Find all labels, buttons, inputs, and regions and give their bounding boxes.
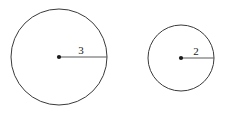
geometry-figure: 3 2: [0, 0, 226, 115]
small-circle-radius-label: 2: [193, 45, 199, 57]
small-circle-center-dot: [179, 56, 183, 60]
circles-diagram: 3 2: [0, 0, 226, 115]
large-circle-center-dot: [57, 55, 61, 59]
large-circle-radius-label: 3: [78, 44, 84, 56]
